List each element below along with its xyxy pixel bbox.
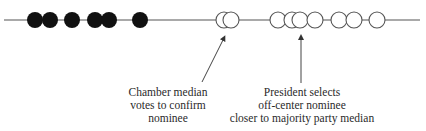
chamber-median-annotation: Chamber median votes to confirm nominee (129, 86, 208, 125)
open-member-circle (331, 12, 347, 28)
filled-member-circle (87, 12, 103, 28)
president-selects-annotation: President selects off-center nominee clo… (230, 86, 374, 125)
annotation-line: off-center nominee (230, 99, 374, 112)
open-member-circle (292, 12, 308, 28)
annotation-line: votes to confirm (129, 99, 208, 112)
open-member-circle (346, 12, 362, 28)
annotation-arrows (202, 37, 301, 83)
annotation-line: closer to majority party median (230, 112, 374, 125)
filled-member-circle (132, 12, 148, 28)
open-member-circle (223, 12, 239, 28)
filled-member-circle (27, 12, 43, 28)
annotation-line: President selects (230, 86, 374, 99)
annotation-line: nominee (129, 112, 208, 125)
open-member-circle (307, 12, 323, 28)
open-member-circle (369, 12, 385, 28)
filled-member-circle (64, 12, 80, 28)
filled-member-circle (101, 12, 117, 28)
filled-member-circle (42, 12, 58, 28)
annotation-arrow (202, 38, 224, 82)
annotation-line: Chamber median (129, 86, 208, 99)
